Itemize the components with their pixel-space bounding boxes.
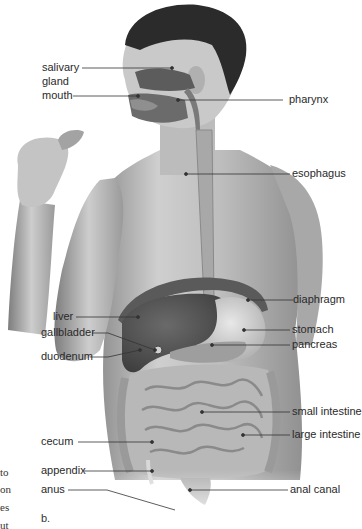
- label-stomach: stomach: [292, 323, 334, 336]
- label-mouth: mouth: [42, 89, 73, 102]
- label-esophagus: esophagus: [292, 167, 346, 180]
- head: [123, 5, 247, 175]
- text-fragment: ut: [0, 519, 9, 529]
- text-fragment: on: [0, 483, 11, 495]
- label-large-intestine: large intestine: [292, 428, 361, 441]
- panel-label: b.: [41, 512, 50, 524]
- text-fragment: to: [0, 466, 9, 478]
- label-cecum: cecum: [41, 435, 73, 448]
- label-duodenum: duodenum: [41, 350, 93, 363]
- label-gallbladder: gallbladder: [41, 326, 95, 339]
- label-salivary-gland-line1: salivary: [42, 61, 79, 74]
- label-pharynx: pharynx: [289, 93, 328, 106]
- label-small-intestine: small intestine: [292, 405, 362, 418]
- label-diaphragm: diaphragm: [293, 293, 345, 306]
- label-anus: anus: [41, 483, 65, 496]
- label-liver: liver: [53, 310, 73, 323]
- label-anal-canal: anal canal: [290, 483, 340, 496]
- text-fragment: es: [0, 501, 9, 513]
- label-salivary-gland-line2: gland: [42, 75, 69, 88]
- label-pancreas: pancreas: [292, 338, 337, 351]
- label-appendix: appendix: [41, 464, 86, 477]
